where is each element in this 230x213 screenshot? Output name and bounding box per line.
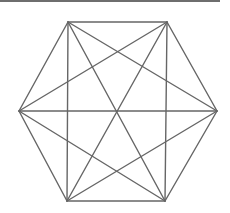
edge-top-left-to-left [19,22,68,111]
edge-right-to-bottom-right [165,111,217,201]
edge-bottom-left-to-left [19,111,67,201]
edge-top-right-to-right [167,22,217,111]
complete-graph-diagram [0,0,230,213]
graph-edges [19,22,217,201]
edge-top-right-to-left [19,22,167,111]
